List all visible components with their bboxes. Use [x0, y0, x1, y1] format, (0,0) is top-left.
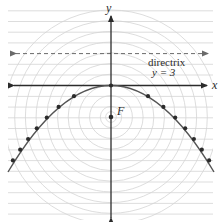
y-axis-label: y	[105, 1, 112, 15]
point	[200, 148, 204, 152]
point	[192, 137, 196, 141]
focus-label: F	[116, 104, 125, 118]
point	[57, 105, 61, 109]
point	[183, 126, 187, 130]
focus-point	[109, 115, 114, 120]
point	[173, 116, 177, 120]
point	[18, 148, 22, 152]
point	[207, 158, 211, 162]
x-axis-label: x	[211, 78, 218, 92]
point	[35, 126, 39, 130]
point	[146, 94, 150, 98]
point	[72, 94, 76, 98]
point	[11, 158, 15, 162]
parabola-diagram: y x directrix y = 3 F	[0, 0, 221, 222]
point	[45, 116, 49, 120]
directrix-equation-label: y = 3	[151, 66, 176, 78]
point	[161, 105, 165, 109]
point	[26, 137, 30, 141]
vertex-point	[109, 83, 113, 87]
